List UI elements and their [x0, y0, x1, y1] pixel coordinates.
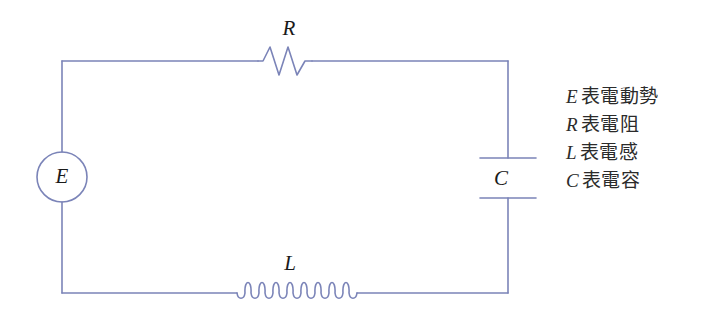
legend-text: 表電感: [580, 142, 639, 163]
legend-text: 表電容: [582, 170, 641, 191]
legend-symbol: E: [566, 86, 581, 107]
circuit-diagram-canvas: R L C E E表電動勢 R表電阻 L表電感 C表電容: [0, 0, 724, 331]
inductor-label: L: [272, 253, 308, 274]
capacitor-label: C: [485, 168, 517, 189]
legend-symbol: R: [566, 114, 581, 135]
resistor-symbol: [258, 47, 312, 75]
legend-item: C表電容: [566, 167, 716, 195]
legend-symbol: C: [566, 170, 582, 191]
legend-item: R表電阻: [566, 111, 716, 139]
inductor-symbol: [237, 283, 357, 299]
emf-source-label: E: [46, 166, 78, 187]
legend-symbol: L: [566, 142, 580, 163]
legend: E表電動勢 R表電阻 L表電感 C表電容: [566, 83, 716, 195]
legend-item: L表電感: [566, 139, 716, 167]
legend-text: 表電動勢: [581, 86, 659, 107]
legend-item: E表電動勢: [566, 83, 716, 111]
legend-text: 表電阻: [581, 114, 640, 135]
resistor-label: R: [271, 18, 307, 39]
